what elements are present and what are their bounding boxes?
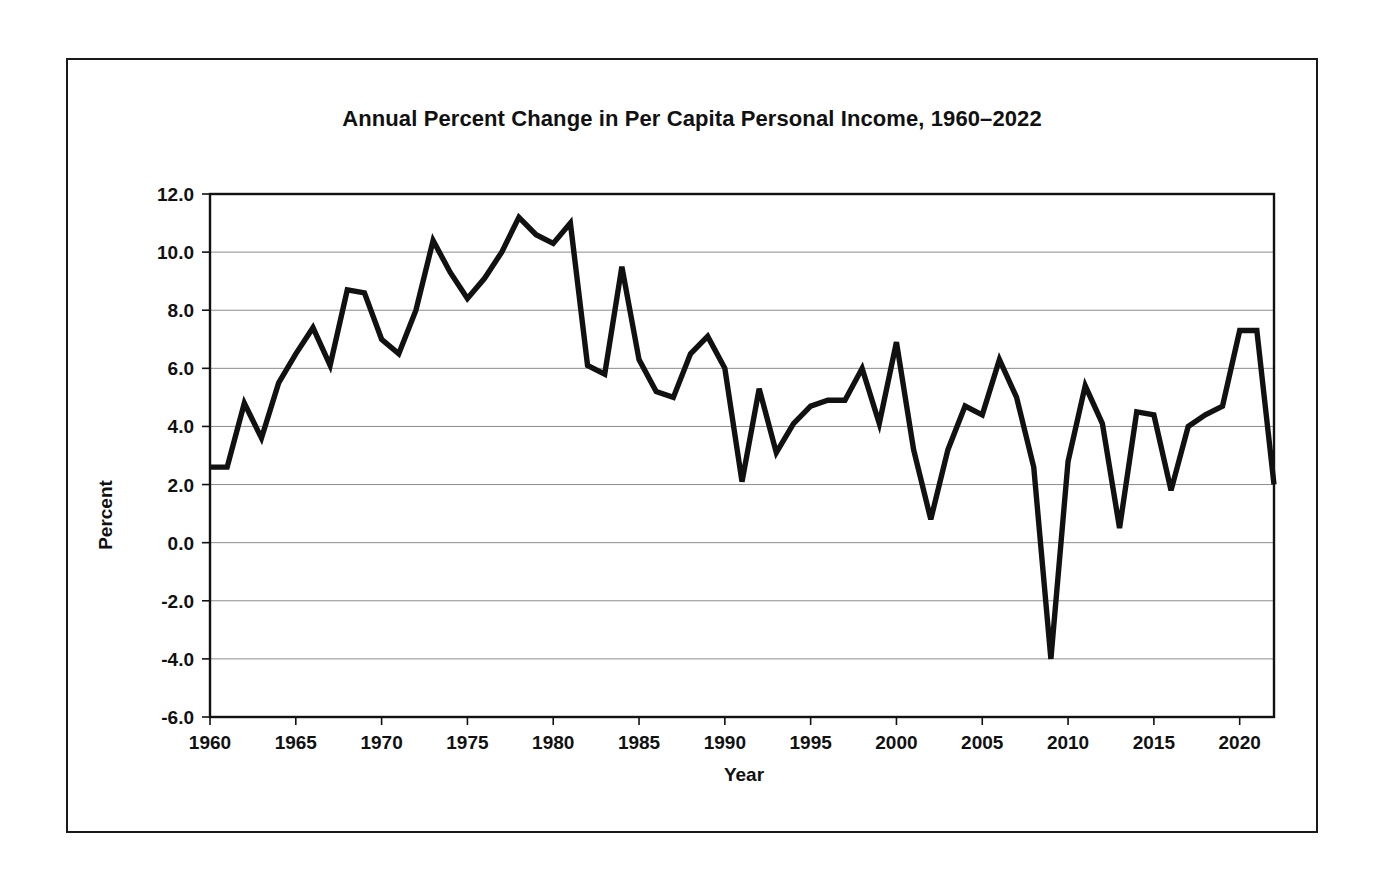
y-tick-label: -2.0	[161, 591, 194, 612]
figure-border: Annual Percent Change in Per Capita Pers…	[66, 58, 1318, 833]
y-tick-label: 10.0	[157, 242, 194, 263]
x-tick-label: 1980	[532, 732, 574, 753]
x-tick-label: 2020	[1219, 732, 1261, 753]
data-series-line	[210, 217, 1274, 659]
y-tick-label: 0.0	[168, 533, 194, 554]
line-chart-svg: 12.010.08.06.04.02.00.0-2.0-4.0-6.0 1960…	[68, 60, 1320, 835]
x-tick-label: 2005	[961, 732, 1004, 753]
y-tick-label: 2.0	[168, 475, 194, 496]
y-tick-label: -6.0	[161, 707, 194, 728]
y-tick-label: 4.0	[168, 416, 194, 437]
plot-area: 12.010.08.06.04.02.00.0-2.0-4.0-6.0 1960…	[68, 60, 1320, 835]
axis-tick-marks	[202, 194, 1240, 725]
axis-frame	[210, 194, 1274, 717]
y-tick-label: 6.0	[168, 358, 194, 379]
x-tick-label: 1995	[790, 732, 833, 753]
x-tick-label: 1960	[189, 732, 231, 753]
y-tick-label: 12.0	[157, 184, 194, 205]
x-axis-tick-labels: 1960196519701975198019851990199520002005…	[189, 732, 1261, 753]
x-tick-label: 2015	[1133, 732, 1176, 753]
y-axis-title: Percent	[95, 479, 116, 549]
y-tick-label: -4.0	[161, 649, 194, 670]
x-tick-label: 2000	[875, 732, 917, 753]
y-axis-tick-labels: 12.010.08.06.04.02.00.0-2.0-4.0-6.0	[157, 184, 194, 728]
y-tick-label: 8.0	[168, 300, 194, 321]
x-tick-label: 2010	[1047, 732, 1089, 753]
plot-border	[210, 194, 1274, 717]
x-tick-label: 1990	[704, 732, 746, 753]
x-tick-label: 1965	[275, 732, 318, 753]
x-tick-label: 1985	[618, 732, 661, 753]
income-change-line	[210, 217, 1274, 659]
x-axis-title: Year	[724, 764, 765, 785]
x-tick-label: 1975	[446, 732, 489, 753]
x-tick-label: 1970	[360, 732, 402, 753]
